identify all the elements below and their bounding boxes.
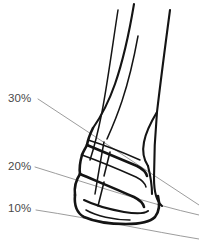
hoof-angle-diagram: 30% 20% 10% (0, 0, 199, 244)
diagram-canvas: 30% 20% 10% (0, 0, 199, 244)
cannon-bone-front-outline (93, 4, 134, 128)
anatomy-group (75, 4, 170, 224)
coronet-fold-edge (82, 145, 87, 155)
percentage-labels-group: 30% 20% 10% (8, 92, 31, 214)
heel-bulb-outline (148, 166, 152, 194)
pastern-segment-2-top-edge (82, 155, 146, 187)
label-20-percent: 20% (8, 160, 31, 172)
pastern-segment-2-outer-edge (80, 155, 82, 174)
label-30-percent: 30% (8, 92, 31, 104)
hoof-inner-wall-outline (84, 200, 148, 213)
hoof-outer-wall-edge (75, 174, 80, 195)
label-10-percent: 10% (8, 202, 31, 214)
joint-crease-lower (98, 182, 104, 206)
pastern-front-upper-edge (87, 128, 93, 145)
